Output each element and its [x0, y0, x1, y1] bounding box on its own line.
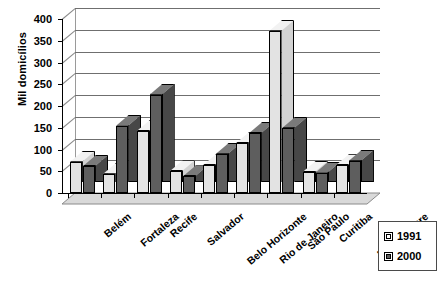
legend-item-2000: 2000 — [384, 246, 436, 266]
bar-front-face — [282, 128, 294, 193]
y-tick-label: 300 — [18, 58, 52, 68]
legend-label-1991: 1991 — [397, 231, 421, 242]
gridline — [75, 30, 380, 31]
bar-front-face — [150, 95, 162, 193]
bar-front-face — [116, 126, 128, 193]
y-tick-label: 250 — [18, 79, 52, 89]
gridline-connector — [62, 30, 76, 42]
y-axis-line — [62, 19, 63, 193]
legend-label-2000: 2000 — [397, 251, 421, 262]
bar-front-face — [249, 133, 261, 193]
bar-front-face — [349, 161, 361, 193]
legend-item-1991: 1991 — [384, 226, 436, 246]
gridline-connector — [62, 117, 76, 129]
legend-swatch-1991-icon — [384, 232, 393, 241]
plot-area — [62, 8, 380, 208]
gridline-connector — [62, 139, 76, 151]
bar-front-face — [316, 173, 328, 193]
bar-2000-porto-alegre — [349, 150, 374, 193]
gridline — [75, 73, 380, 74]
bar-chart: Mil domicílios 400350300250200150100500 … — [0, 0, 442, 299]
bar-front-face — [336, 165, 348, 193]
bar-front-face — [236, 143, 248, 193]
gridline-connector — [62, 95, 76, 107]
y-tick-label: 100 — [18, 145, 52, 155]
bar-front-face — [170, 171, 182, 193]
bar-front-face — [216, 154, 228, 193]
x-category-label: Belém — [101, 210, 133, 239]
x-tick-mark — [134, 193, 135, 198]
gridline-connector — [62, 73, 76, 85]
x-tick-mark — [168, 193, 169, 198]
y-tick-label: 350 — [18, 36, 52, 46]
gridline — [75, 95, 380, 96]
legend-swatch-2000-icon — [384, 252, 393, 261]
bar-front-face — [103, 174, 115, 193]
gridline-connector — [62, 8, 76, 20]
bar-front-face — [269, 31, 281, 193]
gridline — [75, 8, 380, 9]
y-tick-label: 150 — [18, 123, 52, 133]
x-axis-line — [62, 193, 367, 194]
bar-front-face — [303, 172, 315, 193]
y-tick-label: 200 — [18, 101, 52, 111]
x-tick-mark — [301, 193, 302, 198]
x-tick-mark — [201, 193, 202, 198]
y-tick-label: 50 — [18, 166, 52, 176]
bar-front-face — [137, 131, 149, 193]
bar-front-face — [70, 162, 82, 193]
x-tick-mark — [68, 193, 69, 198]
y-tick-label: 0 — [18, 188, 52, 198]
gridline-connector — [62, 52, 76, 64]
y-tick-label: 400 — [18, 14, 52, 24]
bar-front-face — [83, 166, 95, 193]
bar-front-face — [203, 165, 215, 193]
chart-legend: 1991 2000 — [378, 221, 437, 271]
x-tick-mark — [334, 193, 335, 198]
y-axis-tick-labels: 400350300250200150100500 — [18, 0, 52, 299]
x-category-label: Salvador — [204, 210, 246, 248]
x-tick-mark — [267, 193, 268, 198]
x-tick-mark — [234, 193, 235, 198]
bar-front-face — [183, 176, 195, 193]
x-tick-mark — [101, 193, 102, 198]
gridline — [75, 52, 380, 53]
